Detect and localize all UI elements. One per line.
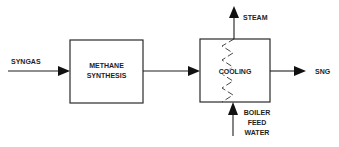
arrowhead-icon — [188, 66, 200, 76]
arrowhead-icon — [294, 66, 306, 76]
bfw-label-line1: BOILER — [244, 109, 270, 116]
bfw-label-line2: FEED — [248, 119, 267, 126]
steam-label: STEAM — [243, 14, 268, 21]
steam-stream: STEAM — [229, 6, 268, 39]
methane-synthesis-label-line1: METHANE — [89, 62, 124, 69]
process-flow-diagram: SYNGAS METHANE SYNTHESIS COOLING STEAM S… — [0, 0, 339, 147]
boiler-feed-water-stream: BOILER FEED WATER — [228, 102, 270, 136]
arrowhead-up-icon — [228, 102, 238, 115]
syngas-label: SYNGAS — [11, 58, 41, 65]
sng-label: SNG — [315, 68, 331, 75]
cooling-node: COOLING — [200, 39, 270, 102]
syngas-stream: SYNGAS — [8, 58, 70, 76]
methane-synthesis-node: METHANE SYNTHESIS — [70, 40, 143, 103]
cooling-label: COOLING — [219, 68, 252, 75]
sng-stream: SNG — [270, 66, 331, 76]
bfw-label-line3: WATER — [245, 129, 270, 136]
synthesis-to-cooling-stream — [143, 66, 200, 76]
methane-synthesis-label-line2: SYNTHESIS — [87, 72, 127, 79]
arrowhead-up-icon — [229, 6, 239, 18]
arrowhead-icon — [58, 66, 70, 76]
